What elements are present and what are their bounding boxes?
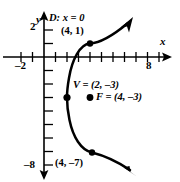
parabola-figure: x y –2 8 2 –8 D: x = 0 (4, 1) V = (2, –3…: [0, 0, 180, 182]
y-axis-ticks: [44, 30, 53, 165]
y-axis: [40, 11, 49, 180]
point-label-4-1: (4, 1): [61, 26, 84, 37]
vertex-marker: [63, 94, 70, 101]
point-marker-4-neg7: [89, 149, 95, 155]
directrix-label: D: x = 0: [49, 13, 84, 24]
coordinate-plane-graphic: [0, 0, 180, 182]
vertex-label: V = (2, –3): [73, 80, 119, 91]
y-axis-label: y: [36, 14, 41, 25]
y-tick-label-2: 2: [30, 21, 36, 32]
focus-label: F = (4, –3): [96, 92, 142, 103]
x-tick-label-neg-2: –2: [15, 60, 26, 71]
y-tick-label-neg-8: –8: [24, 159, 35, 170]
x-axis-label: x: [160, 36, 166, 47]
focus-marker: [87, 94, 94, 101]
point-marker-4-1: [87, 40, 93, 46]
point-label-4-neg7: (4, –7): [55, 158, 83, 169]
x-tick-label-8: 8: [146, 60, 152, 71]
